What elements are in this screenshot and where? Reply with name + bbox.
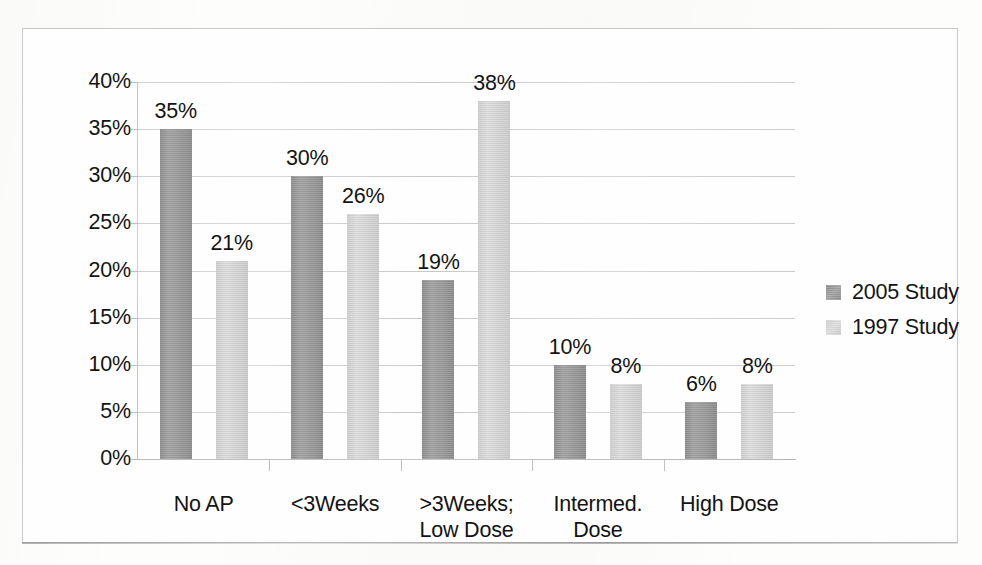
legend-swatch-dark [826, 285, 841, 300]
value-axis-tick [131, 365, 138, 366]
value-axis-tick [131, 223, 138, 224]
bar-group [532, 82, 663, 459]
value-axis-tick-label: 20% [59, 260, 131, 282]
bar[interactable] [422, 280, 454, 459]
value-axis-tick-label: 40% [59, 71, 131, 93]
category-label-line: Dose [518, 517, 678, 543]
value-axis-tick-label: 0% [59, 448, 131, 470]
bar-data-label: 26% [328, 186, 398, 208]
bar[interactable] [160, 129, 192, 459]
legend-swatch-light [826, 320, 841, 335]
bar-data-label: 21% [197, 233, 267, 255]
bar-data-label: 8% [722, 356, 792, 378]
category-label-line: High Dose [649, 491, 809, 517]
value-axis-tick-label: 30% [59, 165, 131, 187]
bar[interactable] [216, 261, 248, 459]
scanned-page: 40%35%30%25%20%15%10%5%0% 35%21%30%26%19… [0, 0, 982, 565]
value-axis-tick [131, 318, 138, 319]
bar[interactable] [741, 384, 773, 459]
bar[interactable] [610, 384, 642, 459]
category-axis-tick [401, 459, 402, 471]
chart-legend: 2005 Study1997 Study [826, 275, 959, 345]
bar[interactable] [685, 402, 717, 459]
legend-item-label: 1997 Study [852, 317, 959, 339]
bar-data-label: 35% [141, 101, 211, 123]
bar[interactable] [347, 214, 379, 459]
value-axis-tick [131, 271, 138, 272]
category-axis-tick [532, 459, 533, 471]
legend-item[interactable]: 1997 Study [826, 310, 959, 345]
value-axis-tick-label: 25% [59, 212, 131, 234]
category-axis-tick [664, 459, 665, 471]
category-axis-line [137, 459, 796, 460]
bar[interactable] [291, 176, 323, 459]
bar-group [138, 82, 269, 459]
bar-data-label: 30% [272, 148, 342, 170]
value-axis-tick-label: 10% [59, 354, 131, 376]
category-axis-label: High Dose [649, 491, 809, 517]
category-axis-tick [269, 459, 270, 471]
value-axis-tick [131, 82, 138, 83]
value-axis-tick-label: 5% [59, 401, 131, 423]
bar-data-label: 38% [460, 73, 530, 95]
value-axis-tick-label: 15% [59, 307, 131, 329]
bar[interactable] [554, 365, 586, 459]
chart-frame: 40%35%30%25%20%15%10%5%0% 35%21%30%26%19… [22, 28, 958, 543]
value-axis-tick-label: 35% [59, 118, 131, 140]
legend-item[interactable]: 2005 Study [826, 275, 959, 310]
value-axis-labels: 40%35%30%25%20%15%10%5%0% [51, 82, 131, 459]
bar-group [664, 82, 795, 459]
bar-data-label: 8% [591, 356, 661, 378]
value-axis-tick [131, 129, 138, 130]
bar[interactable] [478, 101, 510, 459]
legend-item-label: 2005 Study [852, 282, 959, 304]
bar-data-label: 19% [404, 252, 474, 274]
value-axis-tick [131, 176, 138, 177]
bar-group [269, 82, 400, 459]
value-axis-tick [131, 412, 138, 413]
plot-area: 35%21%30%26%19%38%10%8%6%8% [138, 82, 795, 459]
bar-data-label: 6% [666, 374, 736, 396]
